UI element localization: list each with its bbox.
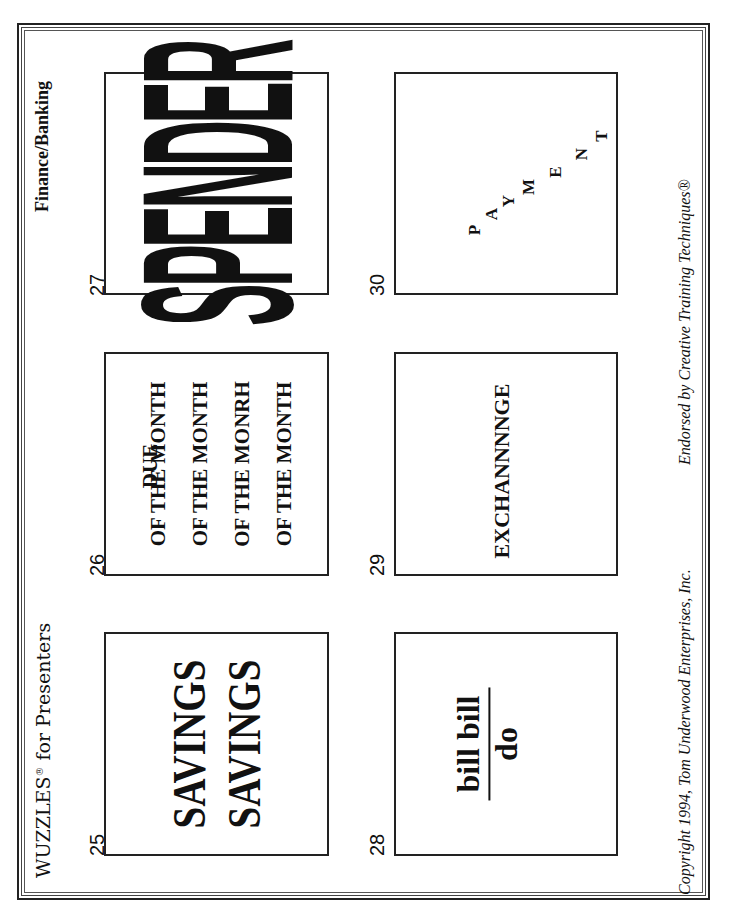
payment-letter-m: M: [519, 179, 539, 195]
page-header-title: WUZZLES® for Presenters: [32, 623, 54, 878]
puzzle-text-savings: SAVINGS SAVINGS: [161, 645, 271, 844]
puzzle-number-29: 29: [366, 554, 389, 576]
puzzle-line: OF THE MONRH: [231, 381, 252, 547]
puzzle-box-30: P A Y M E N T: [394, 72, 618, 295]
fraction-denominator: do: [490, 688, 524, 801]
endorsement-text: Endorsed by Creative Training Techniques…: [676, 179, 694, 465]
copyright-text: Copyright 1994, Tom Underwood Enterprise…: [676, 569, 694, 895]
puzzle-text-spender: SPENDER: [93, 41, 341, 325]
fraction-numerator: bill bill: [453, 688, 491, 801]
page-category: Finance/Banking: [32, 81, 53, 212]
puzzle-line: SAVINGS: [161, 660, 216, 829]
puzzle-text-due-of-the-month: DUE OF THE MONTH OF THE MONTH OF THE MON…: [139, 381, 294, 547]
puzzle-box-28: bill bill do: [394, 632, 618, 856]
puzzle-line: OF THE MONTH: [273, 381, 294, 547]
puzzle-box-29: EXCHANNNNGE: [394, 352, 618, 576]
puzzle-box-27: SPENDER: [104, 72, 329, 295]
puzzle-text-exchange: EXCHANNNNGE: [489, 383, 515, 558]
puzzle-text-fraction: bill bill do: [453, 688, 524, 801]
payment-letter-n: N: [572, 148, 592, 160]
puzzle-number-30: 30: [366, 274, 389, 296]
payment-letter-t: T: [592, 130, 612, 141]
puzzle-line: SAVINGS: [217, 660, 272, 829]
puzzle-number-28: 28: [366, 834, 389, 856]
puzzle-word-due: DUE: [139, 383, 160, 549]
puzzle-box-25: SAVINGS SAVINGS: [104, 632, 329, 856]
puzzle-box-26: DUE OF THE MONTH OF THE MONTH OF THE MON…: [104, 352, 329, 576]
payment-letter-a: A: [482, 208, 502, 220]
payment-letter-y: Y: [499, 195, 519, 207]
payment-letter-e: E: [546, 166, 566, 177]
payment-letter-p: P: [465, 225, 485, 235]
puzzle-line: OF THE MONTH: [189, 381, 210, 547]
